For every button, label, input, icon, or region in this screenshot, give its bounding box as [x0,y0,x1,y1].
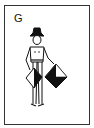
person-figure [26,28,54,106]
right-flag [45,64,67,88]
semaphore-figure-illustration [0,0,94,128]
left-flag [26,68,42,88]
